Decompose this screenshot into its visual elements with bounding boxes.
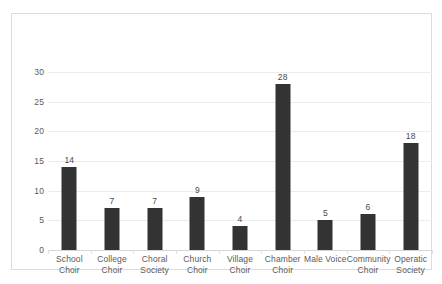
bar[interactable] bbox=[190, 197, 205, 250]
x-category-label-line1: Male Voice bbox=[304, 254, 347, 264]
bar-value-label: 7 bbox=[110, 196, 115, 206]
bar-slot: 5 bbox=[304, 72, 347, 250]
x-category-label-line1: Operatic bbox=[394, 254, 427, 264]
x-axis: SchoolChoirCollegeChoirChoralSocietyChur… bbox=[48, 254, 432, 280]
x-category-label-line1: Village bbox=[227, 254, 253, 264]
bar-value-label: 5 bbox=[323, 208, 328, 218]
bar-value-label: 14 bbox=[65, 155, 75, 165]
x-category-label-line2: Choir bbox=[176, 265, 219, 276]
x-category-label-line2: Society bbox=[389, 265, 432, 276]
y-tick-label-25: 25 bbox=[34, 97, 44, 107]
bar[interactable] bbox=[147, 208, 162, 250]
bar-slot: 9 bbox=[176, 72, 219, 250]
x-category-label-line2: Choir bbox=[261, 265, 304, 276]
bar-slot: 7 bbox=[133, 72, 176, 250]
bar-value-label: 7 bbox=[152, 196, 157, 206]
x-category-label-line1: Community bbox=[347, 254, 391, 264]
bar-chart: 051015202530 147794285618 SchoolChoirCol… bbox=[0, 0, 442, 284]
x-category-label-line2: Choir bbox=[219, 265, 262, 276]
gridline-0 bbox=[48, 250, 432, 251]
bar-slot: 6 bbox=[347, 72, 390, 250]
x-category-label: Male Voice bbox=[304, 254, 347, 265]
x-category-label-line1: Chamber bbox=[265, 254, 301, 264]
bar-slot: 14 bbox=[48, 72, 91, 250]
x-category-label-line1: Choral bbox=[142, 254, 168, 264]
bar[interactable] bbox=[318, 220, 333, 250]
x-category-label: CommunityChoir bbox=[347, 254, 390, 276]
bar[interactable] bbox=[232, 226, 247, 250]
bar-value-label: 9 bbox=[195, 185, 200, 195]
x-category-label-line2: Society bbox=[133, 265, 176, 276]
y-tick-label-10: 10 bbox=[34, 186, 44, 196]
x-category-label: SchoolChoir bbox=[48, 254, 91, 276]
x-category-label-line2: Choir bbox=[91, 265, 134, 276]
y-tick-label-30: 30 bbox=[34, 67, 44, 77]
bar-value-label: 28 bbox=[278, 72, 288, 82]
x-category-label-line1: Church bbox=[183, 254, 211, 264]
bar-slot: 18 bbox=[389, 72, 432, 250]
y-tick-label-20: 20 bbox=[34, 126, 44, 136]
x-category-label: ChamberChoir bbox=[261, 254, 304, 276]
bar-value-label: 4 bbox=[238, 214, 243, 224]
bar[interactable] bbox=[275, 84, 290, 250]
bar-slot: 4 bbox=[219, 72, 262, 250]
x-category-label: OperaticSociety bbox=[389, 254, 432, 276]
chart-frame: 051015202530 147794285618 SchoolChoirCol… bbox=[11, 13, 432, 270]
y-tick-label-15: 15 bbox=[34, 156, 44, 166]
bar-value-label: 18 bbox=[406, 131, 416, 141]
bar[interactable] bbox=[62, 167, 77, 250]
bar-value-label: 6 bbox=[366, 202, 371, 212]
x-category-label-line1: School bbox=[56, 254, 83, 264]
y-tick-label-0: 0 bbox=[39, 245, 44, 255]
bar[interactable] bbox=[360, 214, 375, 250]
category-tick bbox=[432, 250, 433, 254]
bar[interactable] bbox=[104, 208, 119, 250]
y-tick-label-5: 5 bbox=[39, 215, 44, 225]
x-category-label-line2: Choir bbox=[347, 265, 390, 276]
x-category-label-line1: College bbox=[97, 254, 127, 264]
plot-area: 147794285618 bbox=[48, 72, 432, 250]
x-category-label: ChoralSociety bbox=[133, 254, 176, 276]
x-category-label-line2: Choir bbox=[48, 265, 91, 276]
x-category-label: VillageChoir bbox=[219, 254, 262, 276]
y-axis: 051015202530 bbox=[23, 72, 48, 250]
bar[interactable] bbox=[403, 143, 418, 250]
x-category-label: ChurchChoir bbox=[176, 254, 219, 276]
bar-slot: 28 bbox=[261, 72, 304, 250]
bar-slot: 7 bbox=[91, 72, 134, 250]
x-category-label: CollegeChoir bbox=[91, 254, 134, 276]
